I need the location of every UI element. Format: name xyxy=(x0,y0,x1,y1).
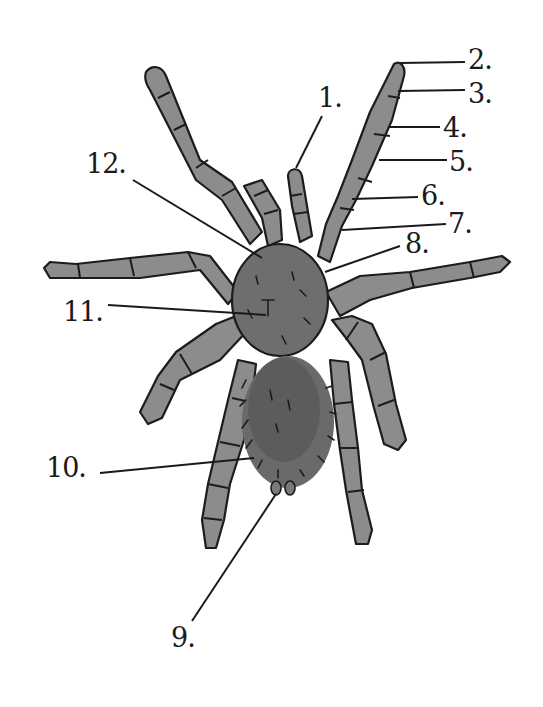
leader-6 xyxy=(352,197,418,199)
abdomen xyxy=(242,356,334,488)
leader-2 xyxy=(400,62,465,63)
pedipalp xyxy=(288,169,312,242)
label-1: 1. xyxy=(318,84,342,111)
leader-8 xyxy=(325,246,400,272)
label-12: 12. xyxy=(86,150,126,177)
leg-front-left xyxy=(145,67,262,244)
label-4: 4. xyxy=(443,114,467,141)
label-7: 7. xyxy=(448,210,472,237)
leader-1 xyxy=(296,116,322,168)
cephalothorax xyxy=(232,244,328,356)
label-5: 5. xyxy=(449,148,473,175)
leader-7 xyxy=(342,224,446,230)
leader-3 xyxy=(398,90,465,91)
label-3: 3. xyxy=(468,80,492,107)
label-2: 2. xyxy=(468,46,492,73)
label-8: 8. xyxy=(405,230,429,257)
leg-middle-right xyxy=(326,256,510,316)
label-11: 11. xyxy=(63,298,103,325)
tarantula-diagram xyxy=(0,0,543,707)
label-9: 9. xyxy=(171,624,195,651)
leg-rear-right xyxy=(330,360,372,544)
label-6: 6. xyxy=(421,182,445,209)
label-10: 10. xyxy=(46,454,86,481)
